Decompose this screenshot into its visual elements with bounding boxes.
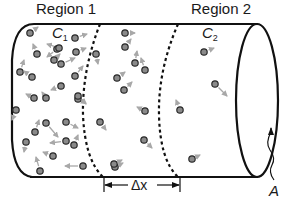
cross-section-area: [236, 24, 278, 177]
particle: [176, 100, 183, 113]
particle: [132, 51, 138, 66]
velocity-arrow: [43, 152, 48, 154]
area-pointer-arrow: [268, 128, 274, 180]
velocity-arrow: [128, 39, 131, 43]
velocity-arrow: [76, 135, 78, 140]
particle-dot: [73, 49, 79, 55]
particle-dot: [72, 73, 78, 79]
particle-dot: [13, 107, 19, 113]
velocity-arrow: [47, 52, 53, 57]
velocity-arrow: [78, 66, 83, 72]
particle-dot: [75, 93, 81, 99]
particle: [73, 48, 86, 55]
velocity-arrow: [42, 92, 43, 94]
particle: [122, 39, 131, 50]
particle-dot: [58, 83, 64, 89]
particle: [65, 163, 86, 169]
velocity-arrow: [176, 100, 178, 105]
region-1-label: Region 1: [36, 0, 96, 17]
velocity-arrow: [26, 94, 30, 96]
velocity-arrow: [136, 51, 137, 58]
velocity-arrow: [103, 126, 106, 130]
velocity-arrow: [97, 59, 98, 64]
velocity-arrow: [36, 157, 39, 166]
c1-label: C1: [52, 24, 68, 43]
particle: [137, 107, 148, 114]
velocity-arrow: [137, 107, 141, 109]
velocity-arrow: [128, 82, 132, 86]
particle: [26, 94, 37, 101]
particle: [72, 34, 87, 41]
particle: [51, 83, 64, 90]
particle: [58, 58, 75, 67]
c2-label: C2: [202, 24, 218, 43]
delta-x-label: Δx: [131, 177, 147, 193]
particle: [141, 137, 152, 148]
velocity-arrow: [33, 44, 35, 49]
particle: [32, 120, 39, 135]
particle-dot: [56, 45, 62, 51]
particle: [50, 138, 69, 144]
velocity-arrow: [22, 60, 24, 67]
particle-dot: [34, 51, 40, 57]
particle: [189, 155, 200, 162]
particle: [42, 92, 49, 101]
particle-dot: [63, 119, 69, 125]
particle-dot: [114, 75, 120, 81]
particle: [111, 160, 122, 167]
particle: [212, 81, 227, 96]
particle-dot: [142, 108, 148, 114]
particle: [97, 119, 106, 130]
particle-dot: [23, 139, 29, 145]
velocity-arrow: [119, 163, 123, 165]
particle: [43, 152, 56, 159]
particle: [36, 157, 43, 174]
velocity-arrow: [219, 88, 227, 96]
velocity-arrow: [121, 72, 125, 75]
particle: [201, 48, 214, 55]
particle: [114, 72, 125, 81]
particle: [71, 135, 78, 148]
particle-dot: [80, 163, 86, 169]
particle-dot: [31, 95, 37, 101]
velocity-arrow: [37, 120, 39, 127]
area-label: A: [268, 182, 279, 198]
particle-dot: [71, 142, 77, 148]
velocity-arrow: [81, 48, 86, 50]
cylinder-left-end: [12, 24, 34, 177]
particle: [33, 44, 40, 57]
particle: [122, 30, 135, 36]
region-2-label: Region 2: [191, 0, 251, 17]
particle-dot: [43, 120, 49, 126]
particle-dot: [43, 95, 49, 101]
particle-dot: [27, 30, 33, 36]
particle-dot: [58, 61, 64, 67]
particle-dot: [201, 49, 207, 55]
diffusion-diagram: Region 1 Region 2 C1 C2 Δx A: [0, 0, 285, 198]
particle-dot: [29, 74, 35, 80]
particle-dot: [142, 67, 148, 73]
particle: [27, 27, 38, 36]
particle-dot: [50, 153, 56, 159]
particle: [17, 60, 24, 75]
particle-dot: [17, 69, 23, 75]
velocity-arrow: [196, 155, 200, 157]
velocity-arrow: [24, 147, 25, 152]
particle: [141, 58, 148, 73]
particle: [43, 120, 58, 137]
particle-dot: [63, 138, 69, 144]
particle: [72, 66, 83, 79]
velocity-arrow: [66, 58, 75, 62]
velocity-arrow: [148, 144, 152, 148]
particle-dot: [72, 35, 78, 41]
particle-dot: [212, 81, 218, 87]
velocity-arrow: [209, 48, 214, 50]
velocity-arrow: [70, 124, 78, 128]
particle-dot: [189, 156, 195, 162]
particle-dot: [121, 87, 127, 93]
particle-dot: [122, 44, 128, 50]
particle: [93, 51, 99, 64]
particle-dot: [51, 57, 57, 63]
particle-group: [12, 27, 227, 174]
particle: [121, 82, 132, 93]
